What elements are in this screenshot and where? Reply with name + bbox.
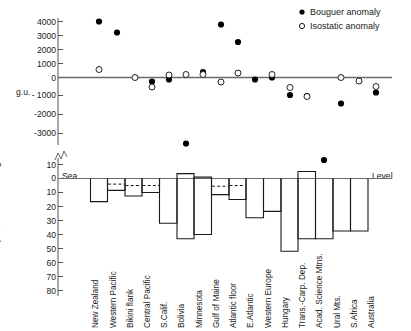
point-isostatic-central-pacific <box>149 84 155 90</box>
legend-marker-bouguer-icon <box>299 9 304 14</box>
point-bouguer-acad-science-mtns <box>321 157 327 163</box>
legend-marker-isostatic-icon <box>299 23 304 28</box>
series-bouguer-anomaly <box>96 18 379 163</box>
point-bouguer-new-zealand <box>96 18 102 24</box>
point-isostatic-western-europe <box>269 72 275 78</box>
point-isostatic-australia <box>373 84 379 90</box>
bar-minnesota <box>194 177 212 234</box>
axis-break-squiggle <box>55 151 67 160</box>
bar-new-zealand <box>91 179 108 202</box>
bar-atlantic-floor <box>229 179 246 200</box>
bar-western-europe <box>264 179 282 212</box>
gravity-anomaly-crustal-thickness-figure: 4000 3000 2000 1000 0 - 1000 -2000 -3000… <box>0 0 411 331</box>
bar-acad-science-mtns <box>316 179 334 239</box>
point-bouguer-australia <box>373 89 379 95</box>
point-isostatic-s-africa <box>356 78 362 84</box>
point-bouguer-gulf-of-maine <box>218 21 224 27</box>
bar-trans-carp-dep <box>298 172 316 239</box>
point-bouguer-hungary <box>287 92 293 98</box>
lower-y-ticks <box>58 165 63 291</box>
point-bouguer-western-pacific <box>114 29 120 35</box>
point-bouguer-atlantic-floor <box>235 39 241 45</box>
point-isostatic-minnesota <box>200 72 206 78</box>
bar-bikini-flank <box>125 179 142 197</box>
point-isostatic-hungary <box>287 85 293 91</box>
point-isostatic-bikini-flank <box>132 75 138 81</box>
point-bouguer-ural-mts <box>338 100 344 106</box>
point-isostatic-gulf-of-maine <box>218 79 224 85</box>
series-isostatic-anomaly <box>96 67 379 100</box>
point-isostatic-ural-mts <box>338 75 344 81</box>
figure-graphics <box>0 0 411 331</box>
point-isostatic-atlantic-floor <box>235 70 241 76</box>
point-isostatic-s-calif <box>166 72 172 78</box>
point-bouguer-e-atlantic <box>252 76 258 82</box>
bar-s-calif <box>160 179 178 224</box>
point-isostatic-trans-carp-dep <box>304 94 310 100</box>
bar-s-africa <box>351 179 369 232</box>
bar-bolivia <box>177 174 194 239</box>
crustal-profile-bars <box>91 172 369 252</box>
bar-e-atlantic <box>246 179 264 218</box>
bar-ural-mts <box>333 179 351 232</box>
point-bouguer-bolivia <box>183 140 189 146</box>
point-isostatic-bolivia <box>183 72 189 78</box>
point-isostatic-new-zealand <box>96 67 102 73</box>
bar-hungary <box>281 179 298 252</box>
